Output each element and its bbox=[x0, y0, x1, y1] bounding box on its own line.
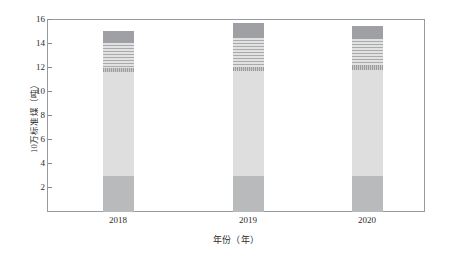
x-axis-title: 年份（年） bbox=[47, 233, 425, 246]
bar-segment[interactable] bbox=[352, 39, 383, 66]
y-tick-mark bbox=[48, 163, 52, 164]
bar-segment[interactable] bbox=[103, 72, 134, 176]
bar-segment[interactable] bbox=[352, 26, 383, 39]
y-tick-mark bbox=[48, 91, 52, 92]
y-tick-mark bbox=[48, 19, 52, 20]
x-tick-label: 2019 bbox=[218, 215, 278, 225]
y-tick-label: 12 bbox=[36, 61, 45, 74]
bar-segment[interactable] bbox=[103, 68, 134, 72]
y-tick-mark bbox=[48, 67, 52, 68]
y-tick-label: 2 bbox=[41, 181, 46, 194]
stacked-bar-chart: 10万标准煤（吨） 246810121416 201820192020 年份（年… bbox=[0, 0, 454, 262]
y-tick-label: 14 bbox=[36, 37, 45, 50]
y-tick-label: 16 bbox=[36, 13, 45, 26]
y-tick-mark bbox=[48, 187, 52, 188]
bar-segment[interactable] bbox=[352, 70, 383, 176]
bar-segment[interactable] bbox=[233, 23, 264, 38]
bar-segment[interactable] bbox=[233, 38, 264, 67]
y-tick-mark bbox=[48, 115, 52, 116]
bar-stack[interactable] bbox=[103, 19, 134, 212]
bar-segment[interactable] bbox=[103, 31, 134, 42]
bar-segment[interactable] bbox=[233, 67, 264, 71]
y-tick-mark bbox=[48, 43, 52, 44]
bar-stack[interactable] bbox=[352, 19, 383, 212]
y-tick-label: 6 bbox=[41, 133, 46, 146]
x-tick-label: 2018 bbox=[88, 215, 148, 225]
y-tick-label: 4 bbox=[41, 157, 46, 170]
bar-segment[interactable] bbox=[103, 43, 134, 68]
x-tick-label: 2020 bbox=[337, 215, 397, 225]
y-tick-label: 8 bbox=[41, 109, 46, 122]
bar-segment[interactable] bbox=[233, 71, 264, 176]
y-tick-label: 10 bbox=[36, 85, 45, 98]
y-tick-mark bbox=[48, 139, 52, 140]
bar-segment[interactable] bbox=[233, 176, 264, 212]
bar-segment[interactable] bbox=[103, 176, 134, 212]
bar-stack[interactable] bbox=[233, 19, 264, 212]
bar-segment[interactable] bbox=[352, 65, 383, 69]
bar-segment[interactable] bbox=[352, 176, 383, 212]
